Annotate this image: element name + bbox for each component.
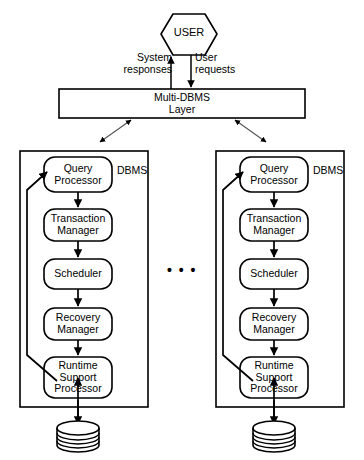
diagram-canvas: USER System responses User requests Mult… [0,0,364,460]
dbms-2-database-icon [253,421,295,452]
diagram-vector-layer [0,0,364,460]
dbms-1-node-recovery-manager [44,308,112,340]
dbms-2-node-scheduler [240,259,308,289]
dbms-1-database-icon [57,421,99,452]
dbms-1-node-scheduler [44,259,112,289]
dbms-1-node-query-processor [44,157,112,192]
user-node [161,14,217,55]
dbms-instance-2 [216,151,344,452]
multi-dbms-layer-box [59,89,305,118]
dbms-instance-1 [20,151,148,452]
layer-to-dbms1-connector [100,120,131,142]
dbms-2-node-transaction-manager [240,209,308,241]
layer-to-dbms2-connector [235,120,266,142]
user-hexagon-shape [161,14,217,55]
dbms-2-node-query-processor [240,157,308,192]
dbms-1-node-transaction-manager [44,209,112,241]
dbms-2-node-recovery-manager [240,308,308,340]
